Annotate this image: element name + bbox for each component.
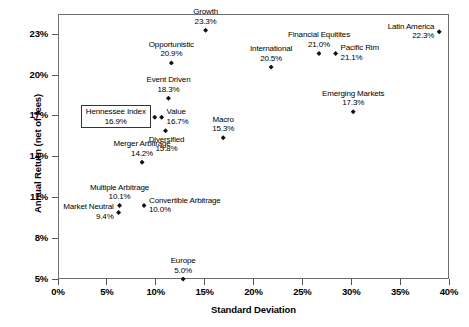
data-point-value: 16.7%: [167, 117, 189, 127]
data-point-name: Europe: [171, 256, 196, 266]
data-point-value: 10.1%: [90, 192, 149, 202]
y-tick-label: 11%: [30, 191, 48, 202]
x-tick-mark: [302, 279, 303, 285]
data-point-value: 20.5%: [250, 54, 292, 64]
data-point-name: Opportunistic: [149, 40, 194, 50]
data-point-label: Value16.7%: [167, 107, 189, 126]
data-point-name: Multiple Arbitrage: [90, 183, 149, 193]
x-tick-label: 20%: [234, 286, 274, 297]
y-tick-mark: [52, 34, 58, 35]
x-tick-mark: [351, 279, 352, 285]
data-point-name: International: [250, 44, 292, 54]
y-tick-label: 5%: [35, 273, 48, 284]
y-tick-mark: [52, 238, 58, 239]
data-point-value: 9.4%: [63, 212, 113, 222]
data-point-label: Merger Arbitrage14.2%: [113, 139, 170, 158]
x-tick-mark: [106, 279, 107, 285]
data-point-name: Convertible Arbitrage: [149, 196, 221, 206]
data-point-value: 20.9%: [149, 49, 194, 59]
scatter-chart: Annual Return (net of fees) 5%8%11%14%17…: [0, 0, 469, 327]
data-point-value: 17.3%: [322, 98, 385, 108]
data-point-value: 14.2%: [113, 149, 170, 159]
x-tick-label: 10%: [136, 286, 176, 297]
data-point-label: Growth23.3%: [193, 7, 218, 26]
data-point-value: 18.3%: [146, 85, 190, 95]
data-point-value: 23.3%: [193, 17, 218, 27]
data-point-name: Event Driven: [146, 75, 190, 85]
y-tick-label: 23%: [30, 28, 48, 39]
x-tick-mark: [204, 279, 205, 285]
data-point-label: International20.5%: [250, 44, 292, 63]
x-tick-label: 15%: [185, 286, 225, 297]
data-point-label: Macro15.3%: [212, 115, 234, 134]
x-tick-label: 5%: [87, 286, 127, 297]
data-point-label: Latin America22.3%: [388, 22, 435, 41]
data-point-label: Financial Equitites21.0%: [288, 30, 350, 49]
data-point-label: Multiple Arbitrage10.1%: [90, 183, 149, 202]
data-point-label: Convertible Arbitrage10.0%: [149, 196, 221, 215]
x-tick-label: 0%: [38, 286, 78, 297]
y-tick-label: 20%: [30, 69, 48, 80]
x-tick-mark: [58, 279, 59, 285]
data-point-name: Merger Arbitrage: [113, 139, 170, 149]
x-tick-label: 25%: [282, 286, 322, 297]
data-point-name: Financial Equitites: [288, 30, 350, 40]
data-point-label: Event Driven18.3%: [146, 75, 190, 94]
y-tick-mark: [52, 197, 58, 198]
x-tick-mark: [400, 279, 401, 285]
data-point-name: Value: [167, 107, 189, 117]
data-point-value: 10.0%: [149, 205, 221, 215]
x-tick-mark: [449, 279, 450, 285]
y-tick-mark: [52, 115, 58, 116]
data-point-name: Latin America: [388, 22, 435, 32]
y-tick-label: 17%: [30, 109, 48, 120]
x-tick-label: 30%: [331, 286, 371, 297]
data-point-value: 5.0%: [171, 266, 196, 276]
data-point-value: 21.0%: [288, 40, 350, 50]
data-point-name: Macro: [212, 115, 234, 125]
data-point-name: Emerging Markets: [322, 89, 385, 99]
data-point-name: Hennessee Index: [86, 107, 146, 117]
y-tick-mark: [52, 156, 58, 157]
x-tick-mark: [253, 279, 254, 285]
x-axis-title: Standard Deviation: [58, 304, 449, 315]
data-point-value: 22.3%: [388, 31, 435, 41]
data-point-label: Opportunistic20.9%: [149, 40, 194, 59]
data-point-label: Europe5.0%: [171, 256, 196, 275]
x-tick-label: 35%: [380, 286, 420, 297]
data-point-label: Emerging Markets17.3%: [322, 89, 385, 108]
x-tick-mark: [155, 279, 156, 285]
data-point-name: Growth: [193, 7, 218, 17]
y-tick-label: 14%: [30, 150, 48, 161]
data-point-value: 21.1%: [341, 53, 379, 63]
data-point-label: Market Neutral9.4%: [63, 202, 113, 221]
data-point-label-highlighted: Hennessee Index16.9%: [81, 105, 151, 128]
y-tick-label: 8%: [35, 232, 48, 243]
x-tick-label: 40%: [429, 286, 469, 297]
data-point-value: 15.3%: [212, 124, 234, 134]
data-point-name: Market Neutral: [63, 202, 113, 212]
data-point-value: 16.9%: [86, 117, 146, 127]
y-tick-mark: [52, 75, 58, 76]
